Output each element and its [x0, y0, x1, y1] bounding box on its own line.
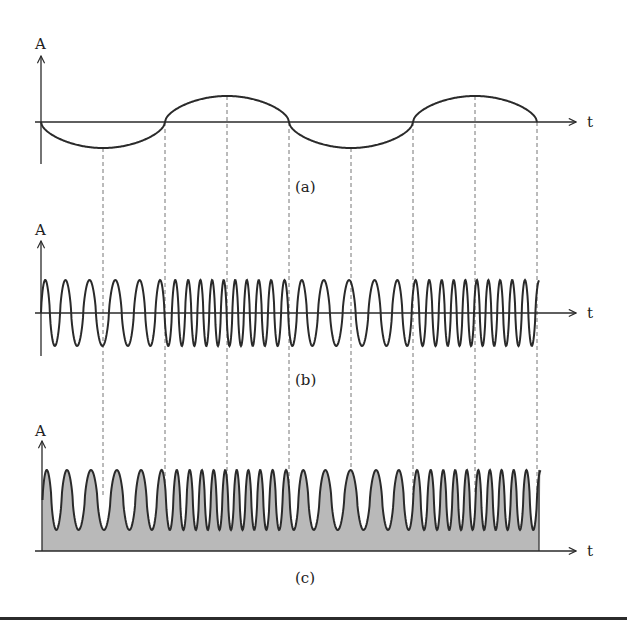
- panel-c-caption: (c): [295, 569, 315, 587]
- panel-c-rectified-fm: A t (c): [34, 422, 593, 587]
- panel-b-caption: (b): [295, 371, 316, 389]
- panel-a-message-signal: A t (a): [34, 35, 593, 196]
- panel-b-y-label: A: [34, 221, 46, 239]
- panel-c-t-label: t: [587, 542, 593, 560]
- panel-c-y-label: A: [34, 422, 46, 440]
- panel-a-caption: (a): [295, 178, 316, 196]
- panel-b-t-label: t: [587, 304, 593, 322]
- panel-a-y-label: A: [34, 35, 46, 53]
- panel-b-fm-signal: A t (b): [34, 221, 593, 389]
- panel-a-t-label: t: [587, 113, 593, 131]
- fm-modulation-diagram: A t (a) A t (b) A t (c): [0, 0, 627, 620]
